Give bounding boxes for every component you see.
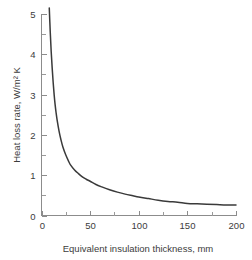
y-tick-label: 2 — [30, 130, 35, 141]
y-axis-title: Heat loss rate, W/m² K — [11, 67, 22, 163]
x-axis-title: Equivalent insulation thickness, mm — [63, 243, 214, 254]
chart-background — [0, 0, 252, 260]
x-tick-label: 150 — [180, 220, 196, 231]
y-tick-label: 4 — [30, 49, 35, 60]
x-tick-label: 200 — [229, 220, 245, 231]
y-tick-label: 1 — [30, 170, 35, 181]
x-tick-label: 0 — [40, 220, 45, 231]
x-tick-label: 100 — [132, 220, 148, 231]
y-tick-label: 0 — [30, 211, 35, 222]
chart-figure: 050100150200 012345 Equivalent insulatio… — [0, 0, 252, 260]
x-tick-label: 50 — [85, 220, 96, 231]
y-tick-label: 5 — [30, 9, 35, 20]
heat-loss-rate-line-chart: 050100150200 012345 Equivalent insulatio… — [0, 0, 252, 260]
y-tick-label: 3 — [30, 90, 35, 101]
